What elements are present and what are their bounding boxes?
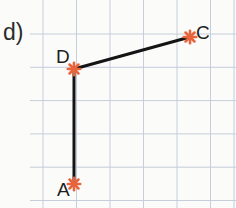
vertex-label-D: D (56, 47, 70, 66)
panel-label: d) (3, 21, 23, 44)
vertex-label-C: C (196, 23, 210, 42)
geometry-figure: d) D C A (0, 0, 236, 208)
vertex-label-A: A (57, 180, 70, 199)
point-marker-C (184, 31, 196, 43)
segment-D-C (74, 37, 190, 69)
